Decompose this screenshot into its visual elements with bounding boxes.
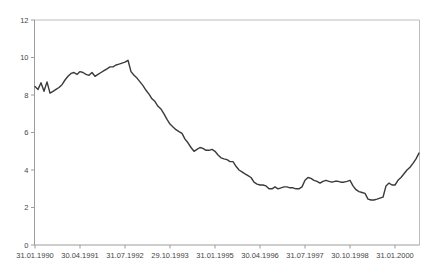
y-axis-tick-label: 6	[24, 128, 28, 137]
y-axis-tick-label: 2	[24, 203, 28, 212]
x-axis-tick-label: 30.04.1996	[241, 251, 279, 260]
y-axis-tick-label: 10	[20, 53, 28, 62]
chart-canvas: 02468101231.01.199030.04.199131.07.19922…	[0, 0, 442, 280]
x-axis-tick-label: 31.01.2000	[376, 251, 414, 260]
x-axis-tick-label: 29.10.1993	[151, 251, 189, 260]
x-axis-tick-label: 30.04.1991	[61, 251, 99, 260]
x-axis-tick-label: 31.07.1992	[106, 251, 144, 260]
x-axis-tick-label: 31.01.1990	[16, 251, 54, 260]
y-axis-tick-label: 12	[20, 16, 28, 25]
plot-area-border	[35, 20, 420, 245]
x-axis-tick-label: 31.07.1997	[286, 251, 324, 260]
y-axis-tick-label: 4	[24, 166, 28, 175]
x-axis-tick-label: 31.01.1995	[196, 251, 234, 260]
y-axis-tick-label: 0	[24, 241, 28, 250]
x-axis-tick-label: 30.10.1998	[331, 251, 369, 260]
line-chart: 02468101231.01.199030.04.199131.07.19922…	[0, 0, 442, 280]
data-series-line	[35, 60, 419, 200]
y-axis-tick-label: 8	[24, 91, 28, 100]
